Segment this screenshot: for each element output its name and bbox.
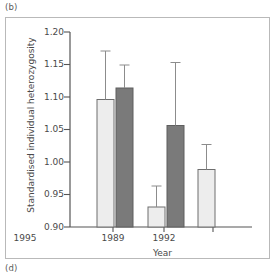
plot-area (0, 0, 275, 277)
bar-1992-light (148, 207, 165, 227)
bar-1992-dark (167, 126, 184, 228)
axis-lines (64, 32, 252, 232)
bar-1989-light (97, 100, 114, 228)
bar-1989-dark (116, 88, 133, 227)
bar-1995-light (198, 170, 215, 228)
bar-chart: Standardised individual heterozygosity Y… (0, 0, 275, 277)
